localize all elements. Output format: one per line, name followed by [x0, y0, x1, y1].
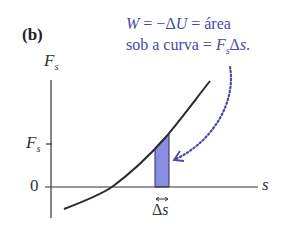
double-arrow-icon: [156, 197, 168, 201]
force-curve: [64, 81, 210, 209]
dotted-arrow-head-icon: [174, 151, 184, 161]
graph-canvas: [0, 0, 301, 232]
